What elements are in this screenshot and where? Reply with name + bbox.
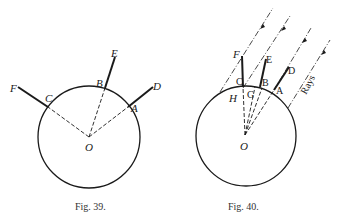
line-BE: [105, 57, 115, 88]
label-D: D: [152, 80, 161, 92]
figure-caption: Fig. 40.: [228, 201, 259, 212]
label-rays: Rays: [298, 73, 317, 96]
label-G: G: [247, 89, 254, 100]
label-H: H: [228, 92, 238, 104]
label-O: O: [85, 141, 93, 153]
label-E: E: [266, 54, 272, 65]
label-F: F: [9, 82, 17, 94]
diagram-canvas: F C E B D A O Fig. 39. F C G H E B: [0, 0, 337, 217]
radius-OC: [48, 107, 89, 137]
radius-OA: [89, 107, 128, 137]
line-CF: [18, 87, 48, 107]
earth-circle: [196, 86, 296, 186]
figure-caption: Fig. 39.: [75, 201, 106, 212]
label-A: A: [276, 85, 284, 96]
label-B: B: [96, 77, 103, 89]
label-D: D: [288, 65, 295, 76]
figure-40: F C G H E B D A O Rays Fig. 40.: [196, 8, 330, 212]
label-C: C: [45, 92, 53, 104]
label-E: E: [110, 47, 118, 59]
figure-39: F C E B D A O Fig. 39.: [9, 47, 161, 212]
label-C: C: [236, 76, 243, 87]
label-B: B: [262, 77, 269, 88]
label-O: O: [240, 140, 248, 152]
label-A: A: [130, 102, 138, 114]
radius-OB: [89, 88, 105, 137]
radius-OG: [243, 87, 245, 135]
label-F: F: [232, 48, 240, 60]
